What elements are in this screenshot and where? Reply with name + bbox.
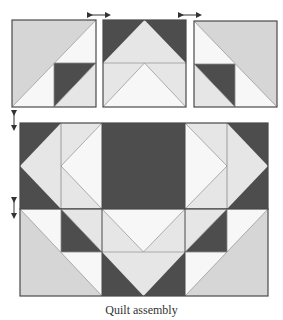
center-block [103, 20, 186, 107]
middle-row [20, 123, 268, 209]
bottom-row [20, 209, 268, 296]
right-block [194, 21, 277, 107]
left-block [12, 20, 96, 107]
figure-caption: Quilt assembly [0, 303, 283, 318]
quilt-assembly-diagram [0, 0, 283, 320]
